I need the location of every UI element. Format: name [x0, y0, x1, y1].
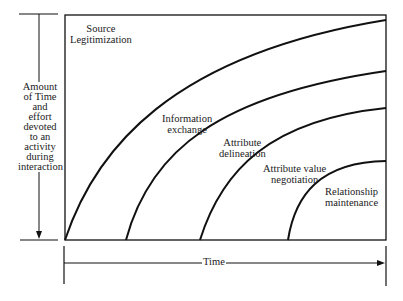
- label-relationship-maintenance: Relationship maintenance: [325, 186, 378, 208]
- x-arrow-right-icon: [377, 260, 385, 266]
- label-line: negotiation: [263, 174, 326, 185]
- label-line: maintenance: [325, 197, 378, 208]
- label-line: Information: [162, 113, 212, 124]
- label-line: Attribute value: [263, 163, 326, 174]
- label-attribute-value-negotiation: Attribute value negotiation: [263, 163, 326, 185]
- y-label-line: interaction: [18, 162, 62, 172]
- label-line: Legitimization: [70, 34, 132, 45]
- label-attribute-delineation: Attribute delineation: [219, 137, 266, 159]
- label-line: delineation: [219, 148, 266, 159]
- label-line: Source: [70, 23, 132, 34]
- y-axis-label: Amount of Time and effort devoted to an …: [18, 82, 62, 172]
- x-axis-label: Time: [202, 256, 226, 268]
- label-information-exchange: Information exchange: [162, 113, 212, 135]
- label-line: Attribute: [219, 137, 266, 148]
- label-line: Relationship: [325, 186, 378, 197]
- y-arrow-down-icon: [36, 231, 42, 239]
- label-source-legitimization: Source Legitimization: [70, 23, 132, 45]
- label-line: exchange: [162, 124, 212, 135]
